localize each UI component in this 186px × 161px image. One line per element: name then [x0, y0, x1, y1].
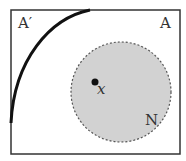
label-a: A [160, 14, 171, 32]
label-n: N [145, 111, 158, 129]
label-a-complement: A′ [18, 14, 32, 32]
label-x: x [97, 80, 105, 98]
